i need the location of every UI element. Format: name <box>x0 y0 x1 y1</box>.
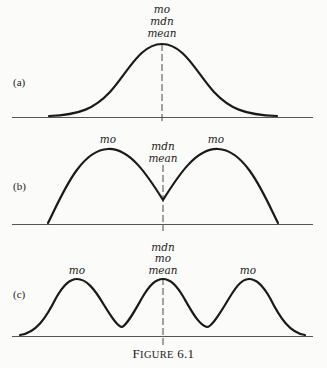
label-median: mdn <box>150 15 174 27</box>
label-mean: mean <box>148 264 177 276</box>
panel-label: (c) <box>13 288 26 301</box>
panel-label: (a) <box>13 76 26 89</box>
unimodal-curve <box>49 44 277 116</box>
label-mean: mean <box>147 27 176 39</box>
label-mode-left: mo <box>69 264 85 276</box>
label-mode-left: mo <box>100 133 116 145</box>
label-mode-center: mo <box>155 252 171 264</box>
label-mode-right: mo <box>208 133 224 145</box>
label-mean: mean <box>148 152 177 164</box>
figure-caption: FIGURE 6.1 <box>0 346 327 362</box>
trimodal-curve <box>20 279 305 335</box>
caption-word: IGURE <box>140 349 174 360</box>
panel-c: mdn mo mean mo mo (c) <box>12 241 313 345</box>
label-median: mdn <box>151 140 175 152</box>
panel-b: mo mo mdn mean (b) <box>12 133 313 231</box>
caption-first-letter: F <box>133 346 141 361</box>
panel-a: mo mdn mean (a) <box>12 3 313 124</box>
caption-number: 6.1 <box>177 346 194 361</box>
figure-canvas: mo mdn mean (a) mo mo mdn mean (b) mdn m… <box>0 0 327 368</box>
label-mode-right: mo <box>240 264 256 276</box>
panel-label: (b) <box>13 180 26 193</box>
label-mode: mo <box>154 3 170 15</box>
